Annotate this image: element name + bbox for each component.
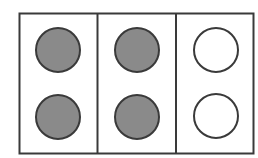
filled-circle-icon	[115, 95, 159, 139]
filled-circle-icon	[36, 95, 80, 139]
empty-circle-icon	[194, 94, 238, 138]
panel-3	[194, 28, 238, 138]
filled-circle-icon	[115, 28, 159, 72]
filled-circle-icon	[36, 28, 80, 72]
panel-2	[115, 28, 159, 139]
panel-1	[36, 28, 80, 139]
circle-groups	[36, 28, 238, 139]
empty-circle-icon	[194, 28, 238, 72]
three-panel-circle-diagram	[0, 0, 258, 158]
